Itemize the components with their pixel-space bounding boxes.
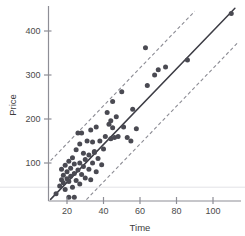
data-point: [88, 128, 93, 133]
scatter-chart: 10020030040020406080100 Time Price: [0, 0, 245, 236]
data-point: [83, 157, 88, 162]
data-point: [145, 83, 150, 88]
data-point: [54, 191, 59, 196]
data-point: [77, 182, 82, 187]
data-point: [94, 124, 99, 129]
data-point: [97, 139, 102, 144]
data-point: [61, 180, 66, 185]
data-point: [85, 139, 90, 144]
data-point: [81, 151, 86, 156]
data-point: [134, 126, 139, 131]
data-point: [81, 164, 86, 169]
data-point: [88, 177, 93, 182]
prediction-bands: [51, 11, 239, 208]
data-point: [79, 172, 84, 177]
data-point: [61, 173, 66, 178]
data-point: [90, 161, 95, 166]
data-point: [99, 162, 104, 167]
plot-svg: 10020030040020406080100 Time Price: [0, 0, 245, 236]
data-points: [54, 11, 234, 200]
data-point: [152, 73, 157, 78]
data-point: [156, 67, 161, 72]
data-point: [74, 178, 79, 183]
data-point: [94, 169, 99, 174]
y-tick-label: 400: [25, 26, 40, 36]
data-point: [72, 195, 77, 200]
x-tick-label: 100: [205, 206, 220, 216]
y-axis-title: Price: [7, 94, 18, 116]
y-tick-label: 100: [25, 158, 40, 168]
data-point: [105, 110, 110, 115]
data-point: [68, 166, 73, 171]
data-point: [110, 125, 115, 130]
data-point: [74, 147, 79, 152]
data-point: [130, 107, 135, 112]
data-point: [121, 124, 126, 129]
data-point: [63, 163, 68, 168]
data-point: [110, 99, 115, 104]
data-point: [83, 175, 88, 180]
data-point: [92, 149, 97, 154]
data-point: [128, 139, 133, 144]
data-point: [63, 187, 68, 192]
data-point: [66, 179, 71, 184]
data-point: [72, 171, 77, 176]
data-point: [86, 153, 91, 158]
data-point: [185, 58, 190, 63]
data-point: [79, 131, 84, 136]
data-point: [66, 159, 71, 164]
data-point: [86, 167, 91, 172]
data-point: [101, 146, 106, 151]
x-tick-label: 20: [62, 206, 72, 216]
data-point: [90, 139, 95, 144]
y-tick-label: 300: [25, 70, 40, 80]
data-point: [65, 169, 70, 174]
data-point: [72, 161, 77, 166]
data-point: [125, 135, 130, 140]
data-point: [108, 118, 113, 123]
data-point: [119, 89, 124, 94]
data-point: [116, 134, 121, 139]
data-point: [103, 134, 108, 139]
data-point: [77, 161, 82, 166]
data-point: [143, 45, 148, 50]
x-tick-label: 80: [171, 206, 181, 216]
data-point: [114, 114, 119, 119]
x-tick-label: 60: [135, 206, 145, 216]
data-point: [59, 167, 64, 172]
x-axis-title: Time: [130, 222, 151, 233]
data-point: [70, 155, 75, 160]
data-point: [163, 65, 168, 70]
data-point: [77, 142, 82, 147]
data-point: [75, 168, 80, 173]
data-point: [229, 11, 234, 16]
y-tick-label: 200: [25, 114, 40, 124]
x-tick-label: 40: [98, 206, 108, 216]
data-point: [96, 156, 101, 161]
data-point: [70, 185, 75, 190]
